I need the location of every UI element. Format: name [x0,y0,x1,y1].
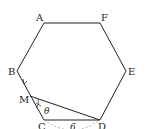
label-theta: θ [44,106,50,116]
hexagon-outline [17,23,126,120]
label-f: F [101,12,108,23]
label-a: A [35,12,44,23]
segment-md [30,96,100,120]
label-e: E [128,66,135,77]
hexagon-diagram: A F B E M C D θ 6 [0,0,148,129]
label-d: D [98,121,106,129]
label-arc-6: 6 [70,122,76,129]
arrow-icon [23,79,27,84]
label-c: C [38,121,46,129]
label-m: M [19,94,29,105]
label-b: B [8,66,15,77]
